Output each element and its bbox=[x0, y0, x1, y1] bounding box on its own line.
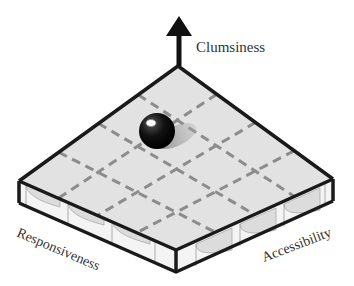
label-clumsiness: Clumsiness bbox=[196, 39, 265, 55]
platform-diagram: Clumsiness Responsiveness Accessibility bbox=[0, 0, 354, 286]
ball-icon bbox=[139, 113, 175, 149]
clumsiness-axis-arrow-icon bbox=[166, 16, 192, 66]
